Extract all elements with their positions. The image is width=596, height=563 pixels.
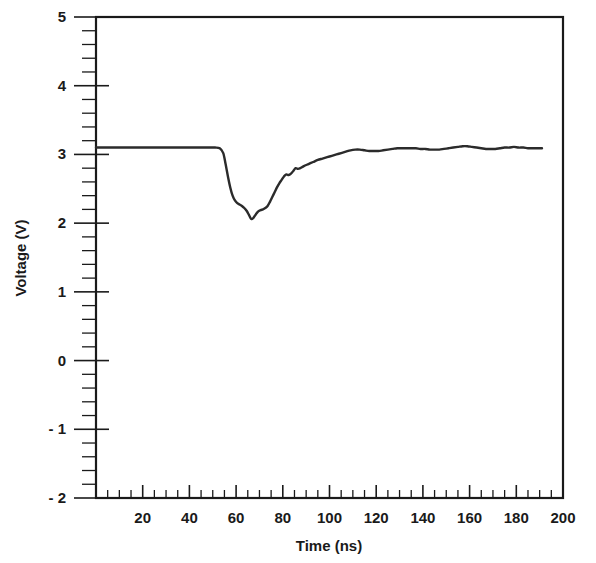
plot-frame bbox=[96, 17, 563, 498]
x-tick-label: 200 bbox=[550, 509, 575, 526]
y-tick-label: 0 bbox=[58, 352, 66, 369]
x-tick-label: 40 bbox=[181, 509, 198, 526]
x-tick-label: 80 bbox=[274, 509, 291, 526]
y-tick-label: 1 bbox=[58, 283, 66, 300]
y-tick-label: 3 bbox=[58, 145, 66, 162]
y-tick-label: - 2 bbox=[48, 489, 66, 506]
x-axis-title: Time (ns) bbox=[296, 537, 362, 554]
y-tick-label: 5 bbox=[58, 8, 66, 25]
x-tick-label: 160 bbox=[457, 509, 482, 526]
x-tick-label: 140 bbox=[410, 509, 435, 526]
y-axis-minor-ticks bbox=[82, 31, 96, 485]
voltage-time-line-chart: 20406080100120140160180200 - 2- 1012345 … bbox=[0, 0, 596, 563]
y-tick-label: 4 bbox=[58, 77, 67, 94]
y-tick-label: 2 bbox=[58, 214, 66, 231]
x-tick-label: 120 bbox=[364, 509, 389, 526]
y-tick-label: - 1 bbox=[48, 420, 66, 437]
x-tick-label: 180 bbox=[504, 509, 529, 526]
x-tick-label: 60 bbox=[228, 509, 245, 526]
x-axis-tick-labels: 20406080100120140160180200 bbox=[134, 509, 575, 526]
chart-figure: 20406080100120140160180200 - 2- 1012345 … bbox=[0, 0, 596, 563]
x-tick-label: 100 bbox=[317, 509, 342, 526]
y-axis-tick-labels: - 2- 1012345 bbox=[48, 8, 66, 506]
x-tick-label: 20 bbox=[134, 509, 151, 526]
y-axis-title: Voltage (V) bbox=[12, 219, 29, 296]
